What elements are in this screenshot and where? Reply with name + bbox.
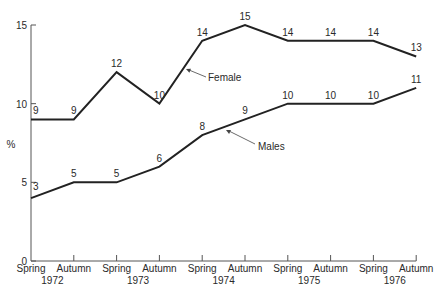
x-season-label: Autumn <box>399 263 433 274</box>
data-label: 5 <box>71 168 77 179</box>
data-label: 15 <box>239 11 251 22</box>
data-label: 10 <box>368 90 380 101</box>
x-season-label: Spring <box>188 263 217 274</box>
data-label: 10 <box>325 90 337 101</box>
x-season-label: Spring <box>359 263 388 274</box>
data-label: 10 <box>282 90 294 101</box>
x-year-label: 1975 <box>298 275 321 286</box>
y-tick-label: 10 <box>16 99 28 110</box>
x-season-label: Autumn <box>228 263 262 274</box>
y-tick-label: 15 <box>16 20 28 31</box>
data-label: 8 <box>199 121 205 132</box>
x-season-label: Spring <box>102 263 131 274</box>
data-label: 14 <box>282 27 294 38</box>
series-annotation-males: Males <box>258 141 285 152</box>
x-season-label: Autumn <box>313 263 347 274</box>
data-label: 9 <box>71 105 77 116</box>
data-label: 9 <box>242 105 248 116</box>
data-label: 9 <box>33 105 39 116</box>
x-year-label: 1976 <box>384 275 407 286</box>
data-label: 12 <box>111 58 123 69</box>
data-label: 14 <box>325 27 337 38</box>
data-label: 14 <box>368 27 380 38</box>
data-label: 6 <box>157 153 163 164</box>
data-label: 3 <box>33 181 39 192</box>
x-season-label: Spring <box>273 263 302 274</box>
annotation-arrow <box>189 70 206 77</box>
data-label: 5 <box>114 168 120 179</box>
x-year-label: 1972 <box>41 275 64 286</box>
x-year-label: 1974 <box>212 275 235 286</box>
line-chart: 051015%SpringAutumnSpringAutumnSpringAut… <box>0 0 447 303</box>
data-label: 13 <box>411 42 423 53</box>
faded-caption <box>10 290 430 298</box>
series-line-males <box>31 88 416 198</box>
x-season-label: Autumn <box>57 263 91 274</box>
x-year-label: 1973 <box>127 275 150 286</box>
x-season-label: Autumn <box>142 263 176 274</box>
annotation-arrow <box>229 131 255 144</box>
x-season-label: Spring <box>17 263 46 274</box>
y-tick-label: 5 <box>21 177 27 188</box>
data-label: 10 <box>154 90 166 101</box>
data-label: 14 <box>197 27 209 38</box>
series-annotation-female: Female <box>208 72 242 83</box>
y-axis-label: % <box>7 139 16 150</box>
data-label: 11 <box>411 74 422 85</box>
